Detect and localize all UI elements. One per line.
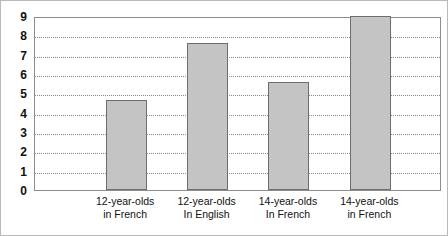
y-tick-label-9: 9 [20,11,27,23]
y-tick-label-0: 0 [20,185,27,197]
bar [106,100,147,190]
y-axis-tick-labels: 9876543210 [1,1,34,236]
x-category-label-line-1: 14-year-olds [319,195,419,208]
y-tick-label-8: 8 [20,30,27,42]
y-tick-label-1: 1 [20,166,27,178]
bar [350,16,391,190]
x-category-label-line-2: in French [319,208,419,221]
x-axis-category-labels: 12-year-oldsin French12-year-oldsIn Engl… [34,195,441,235]
bar [268,82,309,190]
bar-chart-figure: 9876543210 12-year-oldsin French12-year-… [0,0,448,236]
bar [187,43,228,190]
y-tick-label-4: 4 [20,108,27,120]
y-tick-label-7: 7 [20,50,27,62]
x-category-label: 14-year-oldsin French [319,195,419,221]
y-tick-label-6: 6 [20,69,27,81]
y-tick-label-5: 5 [20,88,27,100]
y-tick-label-3: 3 [20,127,27,139]
y-tick-label-2: 2 [20,146,27,158]
plot-area [34,17,441,191]
